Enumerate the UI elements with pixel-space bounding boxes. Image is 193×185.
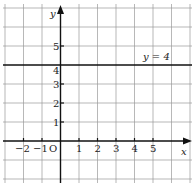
y-tick-label: 2	[53, 98, 59, 109]
x-tick-label: −1	[33, 143, 48, 154]
y-tick-label: 4	[53, 65, 59, 76]
x-tick-label: 1	[76, 143, 82, 154]
y-tick-label: 3	[53, 79, 59, 90]
y-axis-label: y	[49, 8, 56, 19]
y-axis	[57, 5, 64, 183]
grid	[3, 4, 192, 183]
x-tick-label: 5	[150, 143, 156, 154]
y-arrow-icon	[57, 5, 64, 14]
x-tick-label: 4	[132, 143, 138, 154]
x-tick-label: 2	[95, 143, 101, 154]
x-tick-label: 3	[113, 143, 119, 154]
line-label: y = 4	[142, 51, 170, 62]
x-axis-label: x	[181, 146, 187, 157]
coordinate-plane: −2 −1 O 1 2 3 4 5 1 2 3 4 5 x y y = 4	[0, 0, 193, 185]
x-tick-label: −2	[15, 143, 30, 154]
y-tick-label: 1	[53, 117, 59, 128]
origin-label: O	[49, 143, 57, 154]
y-tick-label: 5	[53, 41, 59, 52]
x-arrow-icon	[183, 138, 192, 145]
